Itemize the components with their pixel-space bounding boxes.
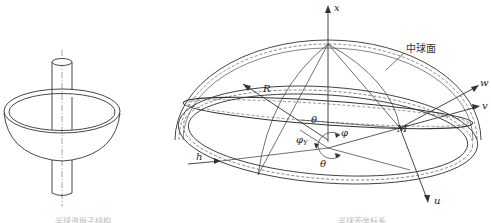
u-axis-label: u xyxy=(434,196,440,206)
phi-y-label: φY xyxy=(296,135,308,147)
v-axis-label: v xyxy=(482,101,488,111)
mid-surface-leader xyxy=(386,53,404,70)
resonator-figure xyxy=(4,50,120,207)
point-m-label: M xyxy=(397,124,407,134)
radius-label: R xyxy=(263,84,271,94)
x-axis-label: x xyxy=(334,3,340,13)
w-axis-label: w xyxy=(480,78,489,88)
mid-surface-label: 中球面 xyxy=(406,44,436,54)
diagram-canvas xyxy=(0,0,491,223)
x-axis-arrowhead xyxy=(325,5,331,13)
right-figure-caption: 半球壳坐标系 xyxy=(338,215,386,223)
hemisphere-coordinate-figure xyxy=(175,5,481,203)
left-figure-caption: 半球谐振子结构 xyxy=(55,215,111,223)
h-label: h xyxy=(196,152,202,162)
u-axis-line xyxy=(400,128,427,199)
phi-label: φ xyxy=(341,128,348,138)
theta-top-label: θ xyxy=(311,115,317,125)
w-axis-line xyxy=(400,87,476,128)
theta-bottom-label: θ xyxy=(320,159,326,169)
